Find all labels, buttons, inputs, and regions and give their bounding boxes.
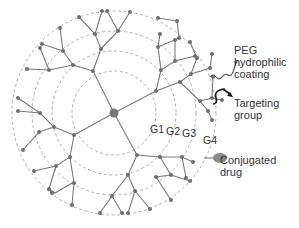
branch-nodes: [16, 9, 224, 215]
core-node: [110, 109, 119, 118]
targeting-label: Targeting group: [234, 97, 279, 121]
peg-label: PEG hydrophilic coating: [234, 44, 287, 80]
label-g4: G4: [203, 134, 217, 146]
peg-label-line3: coating: [234, 68, 287, 80]
drug-label-line1: Conjugated: [220, 154, 276, 166]
label-g1: G1: [150, 123, 164, 135]
peg-label-line1: PEG: [234, 44, 287, 56]
peg-label-line2: hydrophilic: [234, 56, 287, 68]
label-g2: G2: [166, 125, 180, 137]
drug-label-line2: drug: [220, 166, 276, 178]
targeting-label-line1: Targeting: [234, 97, 279, 109]
drug-label: Conjugated drug: [220, 154, 276, 178]
label-g3: G3: [182, 127, 196, 139]
targeting-label-line2: group: [234, 109, 279, 121]
